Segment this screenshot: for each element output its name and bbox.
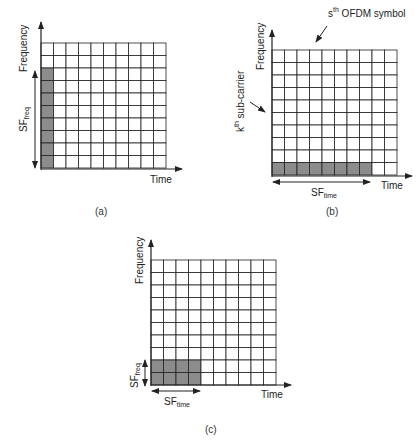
resource-element (322, 113, 335, 126)
resource-element (385, 113, 398, 126)
resource-element (154, 118, 167, 131)
resource-element (104, 156, 117, 169)
resource-element (347, 150, 360, 163)
resource-element (239, 360, 252, 373)
resource-element-shaded (41, 131, 54, 144)
frequency-label-a: Frequency (18, 25, 29, 72)
resource-element (79, 156, 92, 169)
resource-element (335, 125, 348, 138)
resource-element-shaded (335, 163, 348, 176)
resource-element (385, 150, 398, 163)
resource-element (104, 118, 117, 131)
resource-element (385, 163, 398, 176)
resource-element (116, 118, 129, 131)
resource-element (201, 323, 214, 336)
resource-element (176, 260, 189, 273)
resource-element (129, 143, 142, 156)
resource-element (129, 93, 142, 106)
resource-element (272, 125, 285, 138)
sf-time-label-c: SFtime (164, 396, 190, 408)
resource-element-shaded (151, 360, 164, 373)
caption-c: (c) (205, 424, 217, 435)
resource-element (201, 373, 214, 386)
resource-element (201, 310, 214, 323)
resource-element (372, 125, 385, 138)
resource-element (347, 75, 360, 88)
resource-element (176, 348, 189, 361)
resource-element (151, 273, 164, 286)
resource-element (214, 335, 227, 348)
resource-element (54, 156, 67, 169)
resource-element (239, 273, 252, 286)
resource-element-shaded (297, 163, 310, 176)
resource-element (322, 150, 335, 163)
resource-element (214, 360, 227, 373)
resource-element (79, 106, 92, 119)
resource-element (164, 348, 177, 361)
resource-element (154, 68, 167, 81)
resource-element (322, 50, 335, 63)
resource-element (129, 68, 142, 81)
resource-element (91, 156, 104, 169)
resource-element (141, 131, 154, 144)
resource-element (201, 348, 214, 361)
resource-element (164, 323, 177, 336)
resource-element (91, 81, 104, 94)
resource-element (54, 118, 67, 131)
resource-element (360, 75, 373, 88)
resource-element (154, 56, 167, 69)
resource-element (91, 68, 104, 81)
time-label-a: Time (150, 174, 172, 185)
resource-element (116, 43, 129, 56)
resource-element (201, 273, 214, 286)
resource-element (54, 68, 67, 81)
resource-element (214, 298, 227, 311)
resource-element (104, 81, 117, 94)
resource-element (264, 273, 277, 286)
resource-element (141, 143, 154, 156)
resource-element (335, 150, 348, 163)
resource-element (285, 138, 298, 151)
resource-element (41, 43, 54, 56)
resource-element-shaded (360, 163, 373, 176)
resource-element (189, 323, 202, 336)
time-label-b: Time (381, 180, 403, 191)
resource-element (54, 143, 67, 156)
resource-element (385, 100, 398, 113)
resource-element (66, 68, 79, 81)
resource-element (360, 88, 373, 101)
resource-element (79, 68, 92, 81)
resource-element (285, 113, 298, 126)
resource-element (251, 373, 264, 386)
resource-element (360, 50, 373, 63)
resource-element (151, 260, 164, 273)
resource-element (214, 348, 227, 361)
resource-element (310, 100, 323, 113)
resource-element (226, 310, 239, 323)
resource-element (322, 100, 335, 113)
resource-element-shaded (176, 360, 189, 373)
sf-time-label-b: SFtime (311, 187, 337, 199)
subcarrier-arrow (250, 102, 265, 112)
resource-element (91, 43, 104, 56)
ofdm-symbol-arrow (316, 26, 327, 42)
resource-element (116, 93, 129, 106)
resource-element (264, 373, 277, 386)
resource-element-shaded (41, 68, 54, 81)
resource-element (214, 285, 227, 298)
panel-c: Frequency Time SFfreq SFtime (c) (129, 237, 291, 435)
resource-element (79, 118, 92, 131)
resource-element (272, 75, 285, 88)
resource-element (239, 310, 252, 323)
resource-element (176, 285, 189, 298)
resource-element (91, 143, 104, 156)
resource-element (264, 323, 277, 336)
resource-element (360, 113, 373, 126)
resource-element (239, 348, 252, 361)
resource-element (79, 81, 92, 94)
grid-c (151, 260, 276, 385)
resource-element (251, 310, 264, 323)
resource-element (54, 56, 67, 69)
resource-element (129, 106, 142, 119)
resource-element (151, 298, 164, 311)
